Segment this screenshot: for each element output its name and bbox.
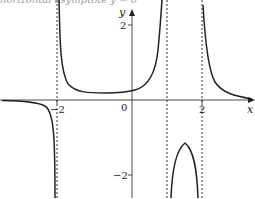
x-tick-label-2: 2 <box>199 104 205 115</box>
x-axis-label: x <box>247 103 254 116</box>
y-axis-label: y <box>118 6 126 19</box>
curve-inner-branch <box>171 143 198 198</box>
x-tick-label-neg2: −2 <box>50 104 65 115</box>
curve-middle-branch <box>59 0 162 93</box>
function-graph: y x 0 −2 2 2 −2 <box>0 0 255 198</box>
curve-left-branch <box>2 101 55 199</box>
origin-label: 0 <box>121 102 127 113</box>
y-axis-arrow-icon <box>129 9 135 16</box>
y-tick-label-neg2: −2 <box>113 170 128 181</box>
y-tick-label-2: 2 <box>120 20 126 31</box>
curve-right-branch <box>203 5 252 99</box>
